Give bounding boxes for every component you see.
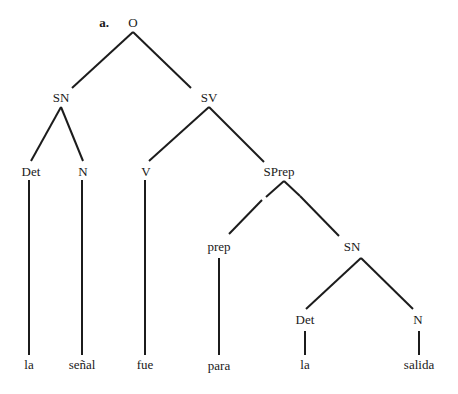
leaf-salida: salida [404, 358, 434, 372]
node-n-2: N [413, 313, 422, 327]
leaf-la: la [24, 358, 33, 372]
leaf-la-2: la [300, 358, 309, 372]
node-sv: SV [201, 91, 218, 105]
node-n: N [78, 165, 87, 179]
edge-sprep-prep-lower [229, 200, 262, 234]
leaf-fue: fue [137, 358, 154, 372]
node-prep: prep [207, 240, 230, 254]
edge-sprep-sn-lower [300, 196, 339, 236]
node-sprep: SPrep [263, 165, 294, 179]
tree-edges [0, 0, 458, 394]
edge-sv-sprep [209, 107, 264, 162]
edge-sn2-det [306, 258, 361, 309]
node-o: O [128, 16, 137, 30]
node-v: V [141, 165, 150, 179]
example-label: a. [99, 16, 109, 30]
edge-sn2-n [361, 258, 413, 309]
node-sn: SN [53, 91, 70, 105]
edge-sprep-sn [284, 181, 300, 196]
node-sn-2: SN [344, 240, 361, 254]
edge-sv-v [149, 107, 209, 161]
leaf-para: para [208, 359, 230, 373]
node-det-2: Det [296, 313, 315, 327]
edge-o-sv [133, 32, 191, 88]
node-det: Det [22, 165, 41, 179]
edge-sn-det [31, 107, 61, 161]
edge-sprep-prep [266, 181, 284, 197]
edge-o-sn [72, 32, 133, 88]
leaf-senal: señal [69, 358, 96, 372]
edge-sn-n [61, 107, 83, 161]
